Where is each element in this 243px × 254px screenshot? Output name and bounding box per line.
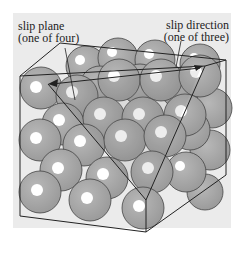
- slip-plane-label-line2: (one of four): [18, 32, 79, 44]
- slip-direction-label-line2: (one of three): [164, 31, 229, 43]
- slip-plane-label: slip plane (one of four): [18, 20, 79, 44]
- slip-direction-label: slip direction (one of three): [164, 19, 229, 43]
